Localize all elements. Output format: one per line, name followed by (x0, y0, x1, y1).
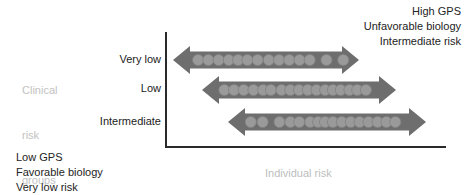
x-axis-line (165, 146, 446, 148)
patient-dot (245, 116, 256, 127)
patient-dot (274, 116, 285, 127)
patient-dot (294, 54, 305, 65)
low-risk-annotation: Low GPS Favorable biology Very low risk (16, 150, 103, 195)
range-arrow-low (202, 76, 396, 104)
patient-dot (360, 84, 371, 95)
high-risk-annotation: High GPS Unfavorable biology Intermediat… (364, 4, 461, 49)
range-arrow-very-low (173, 46, 359, 74)
x-axis-title: Individual risk (265, 166, 332, 181)
patient-dot (390, 116, 401, 127)
patient-dot (321, 54, 332, 65)
patient-dot (265, 84, 276, 95)
patient-dot (273, 54, 284, 65)
risk-stratification-diagram: High GPS Unfavorable biology Intermediat… (0, 0, 467, 195)
high-risk-annotation-line-3: Intermediate risk (364, 34, 461, 49)
arrow-very-low-shape (173, 46, 359, 74)
range-arrow-intermediate (228, 108, 426, 136)
y-tick-label-intermediate: Intermediate (100, 115, 161, 127)
patient-dot (257, 116, 268, 127)
patient-dot (284, 54, 295, 65)
high-risk-annotation-line-2: Unfavorable biology (364, 19, 461, 34)
low-risk-annotation-line-1: Low GPS (16, 150, 103, 165)
patient-dot (304, 54, 315, 65)
arrow-intermediate-shape (228, 108, 426, 136)
y-axis-line (165, 32, 167, 148)
low-risk-annotation-line-3: Very low risk (16, 180, 103, 195)
patient-dot (263, 54, 274, 65)
low-risk-annotation-line-2: Favorable biology (16, 165, 103, 180)
patient-dot (193, 54, 204, 65)
patient-dot (242, 54, 253, 65)
y-tick-label-very-low: Very low (119, 53, 161, 65)
patient-dot (294, 116, 305, 127)
patient-dot (213, 54, 224, 65)
patient-dot (338, 54, 349, 65)
high-risk-annotation-line-1: High GPS (364, 4, 461, 19)
arrow-low-shape (202, 76, 396, 104)
patient-dot (203, 54, 214, 65)
y-tick-label-low: Low (141, 82, 161, 94)
patient-dot (252, 54, 263, 65)
